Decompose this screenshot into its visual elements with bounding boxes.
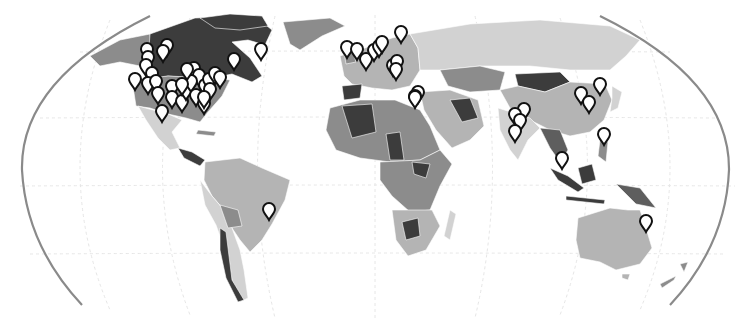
map-pin-icon — [556, 152, 568, 169]
map-pin-marker[interactable]: Canada East — [255, 43, 267, 60]
map-pin-icon — [409, 91, 421, 108]
region-japan — [610, 86, 622, 112]
map-canvas: Canada WestCanada WestCanada WestCanada … — [0, 0, 751, 324]
world-map: Canada WestCanada WestCanada WestCanada … — [0, 0, 751, 324]
region-central-america — [178, 148, 205, 166]
region-greenland — [283, 18, 345, 50]
region-kazakhstan — [440, 66, 505, 92]
region-new-guinea — [616, 184, 656, 208]
region-iberia — [342, 84, 362, 100]
region-borneo — [578, 164, 596, 184]
map-pin-marker[interactable]: Singapore — [556, 152, 568, 169]
region-madagascar — [444, 210, 456, 240]
map-pin-marker[interactable]: Egypt — [409, 91, 421, 108]
region-russia — [410, 20, 640, 70]
region-caribbean — [196, 130, 216, 136]
landmasses — [90, 14, 688, 302]
region-tasmania — [622, 274, 630, 280]
map-pin-icon — [255, 43, 267, 60]
region-new-zealand — [660, 262, 688, 288]
